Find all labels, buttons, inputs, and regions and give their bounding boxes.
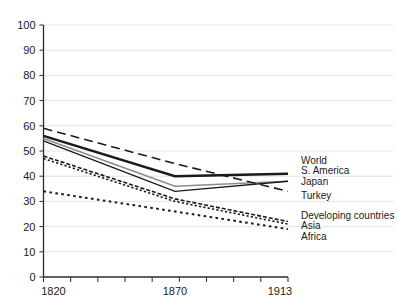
y-tick-label: 50 <box>23 145 35 157</box>
y-tick-label: 100 <box>17 19 35 31</box>
y-tick-label: 80 <box>23 69 35 81</box>
y-tick-label: 0 <box>29 271 35 283</box>
series-lines <box>44 128 289 229</box>
series-line <box>44 156 289 222</box>
line-chart: 0102030405060708090100 182018701913 Worl… <box>0 0 397 304</box>
y-tick-label: 90 <box>23 44 35 56</box>
legend-label: Turkey <box>301 190 331 201</box>
y-tick-label: 60 <box>23 120 35 132</box>
series-line <box>44 138 289 186</box>
x-tick-label: 1820 <box>41 285 65 297</box>
y-tick-label: 40 <box>23 170 35 182</box>
x-tick-label: 1913 <box>268 285 292 297</box>
series-line <box>44 136 289 176</box>
series-line <box>44 128 289 191</box>
legend-label: Africa <box>301 231 327 242</box>
chart-canvas: 0102030405060708090100 182018701913 Worl… <box>0 0 397 304</box>
y-tick-label: 70 <box>23 95 35 107</box>
y-tick-label: 30 <box>23 195 35 207</box>
legend-label: Asia <box>301 220 321 231</box>
series-line <box>44 191 289 229</box>
legend-label: Japan <box>301 176 328 187</box>
x-axis: 182018701913 <box>41 277 292 297</box>
y-axis: 0102030405060708090100 <box>17 19 43 283</box>
y-tick-label: 10 <box>23 246 35 258</box>
legend-label: S. America <box>301 165 350 176</box>
y-tick-label: 20 <box>23 221 35 233</box>
x-tick-label: 1870 <box>163 285 187 297</box>
legend: WorldS. AmericaJapanTurkeyDeveloping cou… <box>301 155 394 242</box>
